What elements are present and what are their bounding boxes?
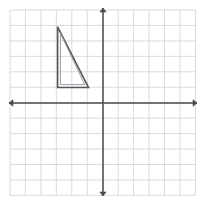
coordinate-plane-figure: [0, 0, 206, 204]
coordinate-plane-canvas: [0, 0, 206, 204]
